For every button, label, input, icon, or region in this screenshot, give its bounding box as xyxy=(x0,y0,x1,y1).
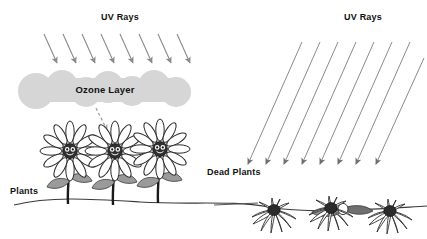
uv-rays-right xyxy=(248,42,424,164)
uv-rays-left xyxy=(44,34,190,63)
diagram-svg xyxy=(0,0,427,239)
plants-label: Plants xyxy=(10,186,66,197)
dead-plants-label: Dead Plants xyxy=(207,167,263,178)
diagram-canvas: UV Rays UV Rays Ozone Layer Plants Dead … xyxy=(0,0,427,239)
uv-rays-right-label: UV Rays xyxy=(328,12,398,23)
uv-rays-left-label: UV Rays xyxy=(85,12,155,23)
dead-plant xyxy=(368,199,412,234)
dead-plant xyxy=(252,198,296,233)
ozone-layer-label: Ozone Layer xyxy=(60,84,150,95)
healthy-plant xyxy=(130,119,190,203)
dead-plants-group xyxy=(252,196,412,234)
